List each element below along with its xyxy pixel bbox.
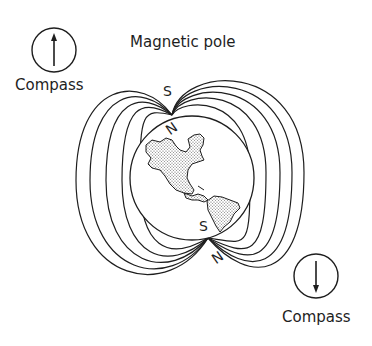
compass-bottom-label: Compass bbox=[282, 308, 351, 326]
magnetic-field-diagram: S N S N Magnetic pole Compass Compass bbox=[0, 0, 372, 346]
diagram-title: Magnetic pole bbox=[130, 33, 236, 51]
arrow-up-icon bbox=[51, 33, 57, 41]
bottom-pole-inner-letter: S bbox=[199, 218, 208, 234]
top-pole-outer-letter: S bbox=[163, 83, 172, 99]
arrow-down-icon bbox=[313, 285, 319, 293]
compass-top-label: Compass bbox=[15, 76, 84, 94]
earth-globe bbox=[130, 116, 254, 240]
compass-bottom bbox=[294, 254, 338, 298]
compass-top bbox=[32, 28, 76, 72]
diagram-canvas: S N S N bbox=[0, 0, 372, 346]
